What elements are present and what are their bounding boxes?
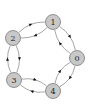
node-4: 4: [46, 84, 61, 99]
arrowhead-icon-3-to-2: [6, 58, 9, 61]
arrowhead-icon-4-to-0: [58, 70, 61, 73]
node-label: 3: [11, 76, 16, 85]
node-label: 1: [50, 18, 55, 27]
nodes-layer: 01234: [6, 15, 85, 99]
node-label: 4: [50, 87, 55, 96]
arrowhead-icon-2-to-3: [18, 57, 21, 60]
edge-1-to-2: [21, 28, 47, 38]
arrowhead-icon-0-to-1: [59, 42, 62, 45]
edge-2-to-1: [19, 22, 45, 32]
arrowhead-icon-0-to-4: [69, 76, 72, 79]
node-label: 0: [74, 54, 79, 63]
node-label: 2: [10, 34, 15, 43]
node-1: 1: [46, 15, 61, 30]
graph-diagram: 01234: [0, 0, 92, 105]
node-3: 3: [7, 73, 22, 88]
arrowhead-icon-1-to-0: [68, 35, 71, 38]
node-2: 2: [6, 31, 21, 46]
node-0: 0: [70, 51, 85, 66]
